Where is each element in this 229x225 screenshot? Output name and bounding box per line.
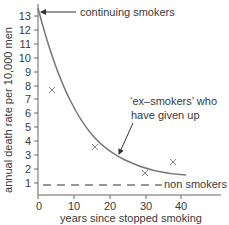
y-tick-label: 8 <box>25 80 31 92</box>
ex-smokers-label-line2: have given up <box>131 109 200 121</box>
x-tick-label: 0 <box>36 200 42 212</box>
ex-smokers-curve <box>38 8 186 175</box>
y-tick-label: 5 <box>25 121 31 133</box>
y-tick-label: 12 <box>19 24 31 36</box>
y-tick-labels: 1 2 3 4 5 6 7 8 9 10 11 12 13 <box>19 10 31 189</box>
y-tick-label: 3 <box>25 149 31 161</box>
y-tick-label: 13 <box>19 10 31 22</box>
y-ticks <box>34 16 38 183</box>
y-tick-label: 2 <box>25 163 31 175</box>
cross-marker <box>92 144 98 150</box>
x-tick-label: 10 <box>68 200 80 212</box>
continuing-smokers-label: continuing smokers <box>80 6 175 18</box>
x-tick-label: 20 <box>104 200 116 212</box>
y-tick-label: 7 <box>25 93 31 105</box>
y-tick-label: 9 <box>25 66 31 78</box>
cross-marker <box>170 159 176 165</box>
y-tick-label: 6 <box>25 107 31 119</box>
y-tick-label: 1 <box>25 177 31 189</box>
ex-smokers-label-line1: ‘ex–smokers’ who <box>130 95 217 107</box>
y-tick-label: 4 <box>25 135 31 147</box>
non-smokers-label: non smokers <box>164 178 227 190</box>
y-axis-label: annual death rate per 10,000 men <box>2 27 14 193</box>
x-tick-label: 30 <box>140 200 152 212</box>
cross-marker <box>49 87 55 93</box>
x-tick-label: 40 <box>175 200 187 212</box>
chart: 1 2 3 4 5 6 7 8 9 10 11 12 13 0 10 20 30… <box>0 0 229 225</box>
y-tick-label: 10 <box>19 52 31 64</box>
y-tick-label: 11 <box>20 38 31 50</box>
x-ticks <box>38 195 181 199</box>
ex-smokers-arrow <box>119 123 133 154</box>
x-axis-label: years since stopped smoking <box>60 212 202 224</box>
cross-marker <box>142 170 148 176</box>
x-tick-labels: 0 10 20 30 40 <box>36 200 187 212</box>
